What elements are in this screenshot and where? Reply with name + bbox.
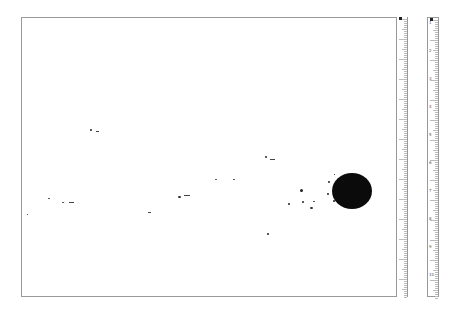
ruler-tick	[404, 31, 407, 32]
ruler-tick	[435, 262, 438, 263]
ruler-tick	[404, 135, 407, 136]
ruler-tick	[404, 65, 407, 66]
ruler-tick	[430, 200, 438, 201]
ruler-tick	[435, 246, 438, 247]
ink-droplet	[265, 156, 267, 158]
ruler-tick	[404, 141, 407, 142]
ruler-tick	[435, 144, 438, 145]
ruler-tick	[402, 89, 407, 90]
ruler-tick	[404, 153, 407, 154]
ruler-tick	[433, 70, 438, 71]
ruler-tick	[404, 63, 407, 64]
ruler-tick	[404, 265, 407, 266]
ruler-tick	[435, 92, 438, 93]
ruler-tick	[435, 88, 438, 89]
ruler-tick	[404, 91, 407, 92]
ruler-tick	[435, 112, 438, 113]
ruler-tick	[435, 96, 438, 97]
ruler-tick	[435, 132, 438, 133]
ruler-tick	[404, 255, 407, 256]
ruler-tick	[404, 173, 407, 174]
ruler-tick	[404, 155, 407, 156]
ruler-tick	[404, 211, 407, 212]
ruler-tick	[404, 293, 407, 294]
ink-droplet	[328, 181, 330, 183]
ruler-tick	[404, 163, 407, 164]
ruler-tick	[435, 28, 438, 29]
ink-droplet	[334, 174, 335, 175]
ruler-tick	[435, 114, 438, 115]
ruler-tick	[435, 226, 438, 227]
ruler-tick	[404, 127, 407, 128]
ruler-tick	[404, 175, 407, 176]
ruler-tick	[435, 44, 438, 45]
ruler-tick	[435, 156, 438, 157]
ruler-tick	[404, 117, 407, 118]
ink-droplet	[327, 193, 329, 195]
ink-droplet	[62, 202, 64, 203]
ruler-label: 3	[429, 76, 432, 81]
ruler-tick	[404, 55, 407, 56]
ruler-tick	[433, 90, 438, 91]
ruler-tick	[435, 52, 438, 53]
ruler-tick	[404, 221, 407, 222]
ruler-tick	[435, 72, 438, 73]
ruler-tick	[404, 77, 407, 78]
ruler-tick	[404, 281, 407, 282]
ruler-tick	[402, 69, 407, 70]
ruler-tick	[404, 27, 407, 28]
ruler-tick	[404, 105, 407, 106]
ruler-tick	[404, 35, 407, 36]
measuring-ruler-left	[396, 17, 408, 297]
ruler-tick	[404, 101, 407, 102]
ruler-tick	[435, 292, 438, 293]
ruler-tick	[435, 288, 438, 289]
ink-droplet	[27, 214, 28, 215]
ruler-tick	[404, 121, 407, 122]
ruler-tick	[402, 109, 407, 110]
ruler-tick	[435, 186, 438, 187]
ruler-tick	[430, 60, 438, 61]
ruler-tick	[404, 243, 407, 244]
ink-droplet	[310, 207, 313, 209]
ruler-tick	[435, 164, 438, 165]
ruler-tick	[433, 110, 438, 111]
ruler-tick	[435, 236, 438, 237]
ruler-tick	[435, 146, 438, 147]
ruler-tick	[404, 165, 407, 166]
ruler-tick	[404, 295, 407, 296]
ruler-tick	[404, 231, 407, 232]
ink-droplet	[48, 198, 50, 199]
ruler-tick	[404, 185, 407, 186]
ruler-tick	[404, 73, 407, 74]
ruler-tick	[435, 196, 438, 197]
ruler-tick	[435, 178, 438, 179]
ruler-tick	[404, 123, 407, 124]
ruler-tick	[435, 46, 438, 47]
ruler-tick	[404, 145, 407, 146]
ink-droplet	[184, 195, 190, 196]
ruler-tick	[430, 140, 438, 141]
ruler-tick	[404, 263, 407, 264]
ruler-tick	[399, 139, 407, 140]
ruler-tick	[404, 75, 407, 76]
ink-droplet	[233, 179, 235, 180]
ruler-tick	[404, 215, 407, 216]
ruler-tick	[435, 152, 438, 153]
ruler-tick	[435, 66, 438, 67]
ruler-tick	[402, 209, 407, 210]
ink-droplet	[178, 196, 181, 198]
ruler-tick	[435, 68, 438, 69]
ruler-tick	[435, 264, 438, 265]
ruler-tick	[435, 166, 438, 167]
ruler-tick	[404, 83, 407, 84]
ruler-tick	[433, 150, 438, 151]
ruler-tick	[435, 142, 438, 143]
ruler-tick	[433, 190, 438, 191]
ruler-tick	[435, 158, 438, 159]
ruler-tick	[404, 171, 407, 172]
ruler-tick	[404, 51, 407, 52]
ruler-tick	[404, 103, 407, 104]
ruler-tick	[404, 191, 407, 192]
ruler-tick	[435, 56, 438, 57]
